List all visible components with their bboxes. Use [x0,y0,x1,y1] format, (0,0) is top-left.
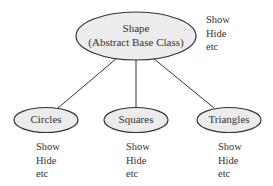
triangles-methods: Show Hide etc [218,140,242,181]
method-show: Show [36,140,60,154]
method-show: Show [218,140,242,154]
circles-methods: Show Hide etc [36,140,60,181]
method-show: Show [206,13,230,27]
method-hide: Hide [206,27,230,41]
method-show: Show [126,140,150,154]
method-etc: etc [126,167,150,181]
method-hide: Hide [218,154,242,168]
root-methods: Show Hide etc [206,13,230,54]
circles-node-label: Circles [30,113,61,126]
method-hide: Hide [126,154,150,168]
squares-node-label: Squares [119,113,154,126]
method-etc: etc [206,40,230,54]
triangles-node-label: Triangles [208,113,249,126]
edge-root-triangles [153,58,214,108]
method-hide: Hide [36,154,60,168]
edge-root-circles [58,58,117,108]
squares-methods: Show Hide etc [126,140,150,181]
root-node-subtitle: (Abstract Base Class) [88,36,183,49]
method-etc: etc [36,167,60,181]
method-etc: etc [218,167,242,181]
root-node-title: Shape [123,22,150,35]
